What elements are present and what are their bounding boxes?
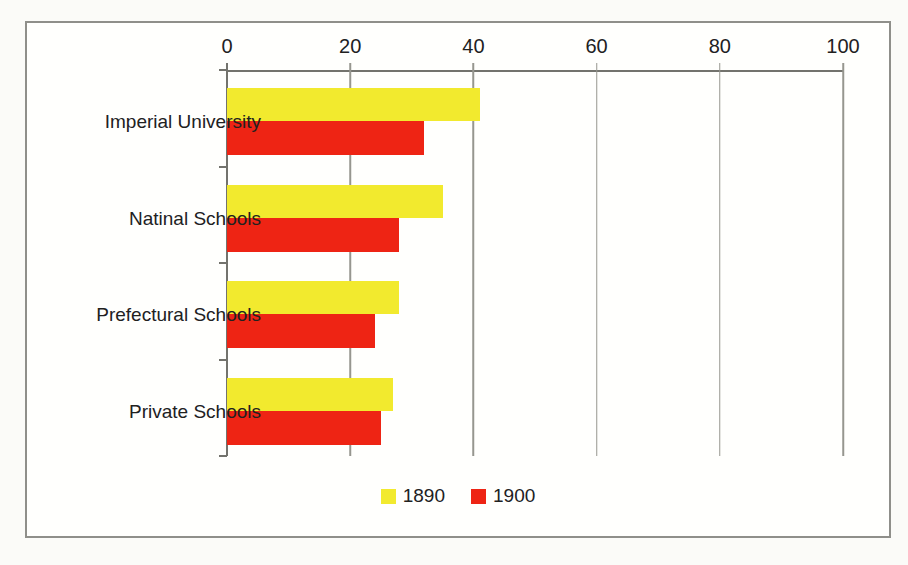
legend-item-1900: 1900 <box>471 485 535 507</box>
category-boundary-tick <box>219 69 227 71</box>
category-label: Prefectural Schools <box>71 304 261 326</box>
legend-label: 1900 <box>493 485 535 507</box>
gridline <box>473 63 475 456</box>
category-label: Imperial University <box>71 111 261 133</box>
plot-area <box>227 70 843 456</box>
value-axis: 020406080100 <box>227 35 843 63</box>
legend-swatch-icon <box>471 489 486 504</box>
category-label: Private Schools <box>71 401 261 423</box>
value-axis-tick-label: 80 <box>709 35 731 58</box>
value-axis-tick-label: 20 <box>339 35 361 58</box>
value-axis-line <box>227 70 843 72</box>
category-boundary-tick <box>219 262 227 264</box>
category-boundary-tick <box>219 166 227 168</box>
legend-swatch-icon <box>381 489 396 504</box>
value-axis-tick-label: 60 <box>585 35 607 58</box>
category-boundary-tick <box>219 359 227 361</box>
legend: 18901900 <box>27 485 889 507</box>
gridline <box>719 63 721 456</box>
chart-figure: 020406080100 Imperial UniversityNatinal … <box>0 0 908 565</box>
value-axis-tick-label: 40 <box>462 35 484 58</box>
chart-frame: 020406080100 Imperial UniversityNatinal … <box>25 21 891 538</box>
legend-item-1890: 1890 <box>381 485 445 507</box>
value-axis-tick-label: 0 <box>221 35 232 58</box>
bar-1890-imperial-university <box>227 88 480 121</box>
category-boundary-tick <box>219 455 227 457</box>
gridline <box>596 63 598 456</box>
value-axis-tick-label: 100 <box>826 35 859 58</box>
gridline <box>842 63 844 456</box>
legend-label: 1890 <box>403 485 445 507</box>
category-label: Natinal Schools <box>71 208 261 230</box>
